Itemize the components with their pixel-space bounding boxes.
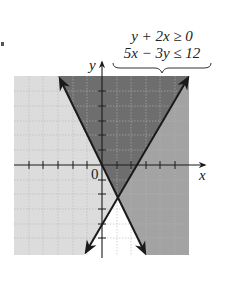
graph (0, 0, 229, 285)
x-axis-label: x (199, 167, 206, 184)
brace (113, 63, 211, 73)
y-axis-label: y (89, 57, 96, 74)
origin-label: 0 (91, 166, 99, 183)
